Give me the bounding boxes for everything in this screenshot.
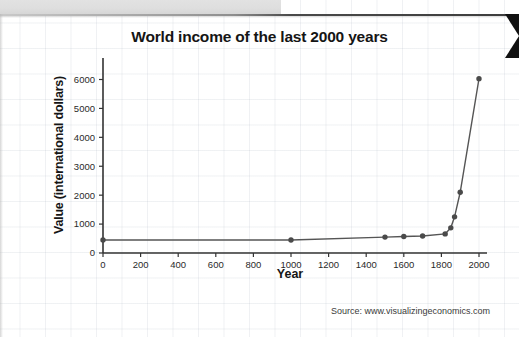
x-axis-tick-label: 1400 bbox=[356, 259, 377, 270]
y-axis-tick-label: 0 bbox=[90, 247, 95, 258]
x-axis-tick-label: 1000 bbox=[280, 259, 301, 270]
x-axis-tick-label: 400 bbox=[170, 259, 186, 270]
y-axis-tick-label: 3000 bbox=[74, 161, 95, 172]
data-series-line bbox=[103, 79, 479, 240]
y-axis-tick-label: 2000 bbox=[74, 190, 95, 201]
slide-canvas: World income of the last 2000 years Valu… bbox=[0, 0, 519, 337]
data-point-marker bbox=[100, 237, 105, 242]
x-axis-tick-label: 1200 bbox=[318, 259, 339, 270]
x-axis-tick-label: 600 bbox=[208, 259, 224, 270]
source-note: Source: www.visualizingeconomics.com bbox=[0, 306, 490, 316]
x-axis-tick-label: 800 bbox=[245, 259, 261, 270]
data-point-marker bbox=[452, 214, 457, 219]
x-axis-tick-label: 1800 bbox=[431, 259, 452, 270]
y-axis-tick-label: 6000 bbox=[74, 74, 95, 85]
data-point-marker bbox=[401, 234, 406, 239]
y-axis-tick-label: 5000 bbox=[74, 103, 95, 114]
x-axis-tick-label: 1600 bbox=[393, 259, 414, 270]
data-series-group bbox=[100, 76, 481, 243]
data-point-marker bbox=[448, 225, 453, 230]
y-axis-ticks: 0100020003000400050006000 bbox=[74, 74, 103, 259]
data-point-marker bbox=[442, 231, 447, 236]
x-axis-tick-label: 2000 bbox=[468, 259, 489, 270]
data-point-marker bbox=[382, 234, 387, 239]
data-point-marker bbox=[420, 233, 425, 238]
data-point-marker bbox=[288, 237, 293, 242]
y-axis-tick-label: 1000 bbox=[74, 218, 95, 229]
data-point-marker bbox=[476, 76, 481, 81]
axis-lines bbox=[103, 58, 487, 253]
x-axis-tick-label: 0 bbox=[100, 259, 105, 270]
x-axis-tick-label: 200 bbox=[133, 259, 149, 270]
chart-plot: 0100020003000400050006000 02004006008001… bbox=[0, 0, 519, 337]
x-axis-ticks: 0200400600800100012001400160018002000 bbox=[100, 253, 489, 270]
y-axis-tick-label: 4000 bbox=[74, 132, 95, 143]
data-point-marker bbox=[458, 190, 463, 195]
data-point-markers bbox=[100, 76, 481, 243]
